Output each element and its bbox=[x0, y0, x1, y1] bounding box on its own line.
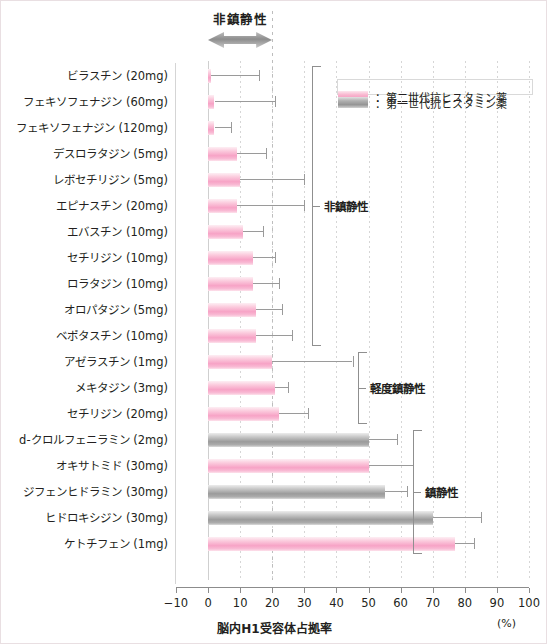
y-axis-label: ベポタスチン (10mg) bbox=[56, 323, 168, 349]
error-bar bbox=[253, 283, 279, 284]
x-tick-label: 10 bbox=[233, 596, 248, 610]
x-axis-title: 脳内H1受容体占拠率 bbox=[1, 619, 547, 636]
y-axis-label: ビラスチン (20mg) bbox=[67, 63, 168, 89]
x-tick bbox=[208, 588, 209, 593]
y-axis-label: セチリジン (20mg) bbox=[67, 401, 168, 427]
x-tick-label: 0 bbox=[204, 596, 211, 610]
error-bar-cap bbox=[397, 434, 398, 445]
x-tick-label: 90 bbox=[490, 596, 505, 610]
bar-row bbox=[176, 375, 529, 401]
y-axis-label: ロラタジン (10mg) bbox=[67, 271, 168, 297]
x-tick-label: 80 bbox=[457, 596, 472, 610]
error-bar-cap bbox=[353, 356, 354, 367]
bar bbox=[208, 433, 368, 447]
error-bar-cap bbox=[263, 226, 264, 237]
error-bar bbox=[253, 257, 275, 258]
x-tick-label: 100 bbox=[518, 596, 540, 610]
x-tick-label: 60 bbox=[393, 596, 408, 610]
bar bbox=[208, 69, 211, 83]
bar bbox=[208, 355, 272, 369]
bar bbox=[208, 459, 368, 473]
x-tick-label: 30 bbox=[297, 596, 312, 610]
y-axis-category-labels: ビラスチン (20mg)フェキソフェナジン (60mg)フェキソフェナジン (1… bbox=[1, 61, 176, 588]
chart-figure: 非鎮静性 ：第二世代抗ヒスタミン薬 ：第一世代抗 bbox=[0, 0, 547, 644]
error-bar bbox=[272, 361, 352, 362]
bracket-bottom-tick bbox=[358, 423, 367, 424]
x-tick-label: 40 bbox=[329, 596, 344, 610]
error-bar-cap bbox=[304, 174, 305, 185]
y-axis-label: ジフェンヒドラミン (30mg) bbox=[23, 479, 168, 505]
error-bar-cap bbox=[308, 408, 309, 419]
y-axis-label: エバスチン (10mg) bbox=[67, 219, 168, 245]
error-bar bbox=[369, 439, 398, 440]
x-tick bbox=[176, 588, 177, 593]
bracket-mid-tick bbox=[312, 206, 320, 207]
bar bbox=[208, 121, 214, 135]
error-bar-cap bbox=[292, 330, 293, 341]
y-axis-label: ケトチフェン (1mg) bbox=[64, 531, 168, 557]
gridline bbox=[529, 61, 530, 580]
x-tick-label: 70 bbox=[425, 596, 440, 610]
bracket-label: 軽度鎮静性 bbox=[370, 380, 425, 396]
x-tick bbox=[272, 588, 273, 593]
y-axis-label: ヒドロキシジン (30mg) bbox=[45, 505, 168, 531]
error-bar-cap bbox=[304, 200, 305, 211]
bracket-top-tick bbox=[312, 66, 321, 67]
error-bar bbox=[211, 75, 259, 76]
y-axis-label: レボセチリジン (5mg) bbox=[53, 167, 168, 193]
y-axis-label: d-クロルフェニラミン (2mg) bbox=[19, 427, 168, 453]
bracket-mid-tick bbox=[358, 388, 366, 389]
bar bbox=[208, 511, 433, 525]
x-tick bbox=[497, 588, 498, 593]
y-axis-label: オロパタジン (5mg) bbox=[64, 297, 168, 323]
error-bar bbox=[215, 101, 276, 102]
y-axis-label: フェキソフェナジン (60mg) bbox=[23, 89, 168, 115]
bar bbox=[208, 95, 214, 109]
bar bbox=[208, 407, 279, 421]
error-bar-cap bbox=[231, 122, 232, 133]
double-headed-arrow-icon bbox=[208, 31, 272, 49]
x-tick bbox=[401, 588, 402, 593]
bar bbox=[208, 381, 275, 395]
y-axis-label: セチリジン (10mg) bbox=[67, 245, 168, 271]
y-axis-label: フェキソフェナジン (120mg) bbox=[16, 115, 168, 141]
error-bar-cap bbox=[275, 252, 276, 263]
error-bar bbox=[256, 309, 282, 310]
bar bbox=[208, 485, 385, 499]
error-bar bbox=[369, 465, 414, 466]
error-bar bbox=[237, 153, 266, 154]
bar bbox=[208, 225, 243, 239]
bar bbox=[208, 199, 237, 213]
error-bar bbox=[243, 231, 262, 232]
error-bar bbox=[240, 179, 304, 180]
x-tick-label: −10 bbox=[164, 596, 188, 610]
bracket-label: 非鎮静性 bbox=[324, 198, 368, 214]
sedation-bracket: 軽度鎮静性 bbox=[358, 352, 438, 424]
bracket-label: 鎮静性 bbox=[425, 484, 458, 500]
error-bar bbox=[237, 205, 304, 206]
x-tick bbox=[369, 588, 370, 593]
non-sedating-range-annotation: 非鎮静性 bbox=[208, 9, 272, 55]
error-bar bbox=[215, 127, 231, 128]
bar bbox=[208, 277, 253, 291]
error-bar bbox=[256, 335, 291, 336]
bar bbox=[208, 251, 253, 265]
error-bar-cap bbox=[279, 278, 280, 289]
x-tick bbox=[304, 588, 305, 593]
error-bar bbox=[279, 413, 308, 414]
x-tick-label: 20 bbox=[265, 596, 280, 610]
x-tick bbox=[433, 588, 434, 593]
x-tick bbox=[465, 588, 466, 593]
bar-row bbox=[176, 401, 529, 427]
error-bar bbox=[275, 387, 288, 388]
bar bbox=[208, 173, 240, 187]
y-axis-label: エピナスチン (20mg) bbox=[56, 193, 168, 219]
x-tick bbox=[529, 588, 530, 593]
bar bbox=[208, 147, 237, 161]
x-tick bbox=[240, 588, 241, 593]
sedation-bracket: 鎮静性 bbox=[413, 430, 493, 554]
bracket-bottom-tick bbox=[413, 553, 422, 554]
bar-row bbox=[176, 349, 529, 375]
y-axis-label: アゼラスチン (1mg) bbox=[64, 349, 168, 375]
x-tick-label: 50 bbox=[361, 596, 376, 610]
